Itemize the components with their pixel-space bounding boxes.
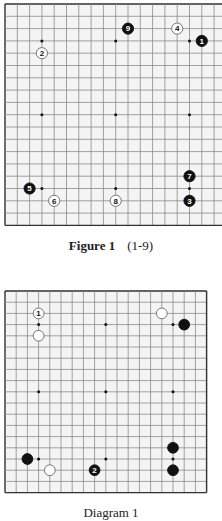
black-stone [168,465,179,476]
star-point [104,390,107,393]
star-point [37,390,40,393]
diagram1-caption-label: Diagram 1 [83,505,138,520]
figure1-caption-range: (1-9) [127,238,153,253]
white-stone [33,330,44,341]
black-stone [179,319,190,330]
white-stone [156,308,167,319]
star-point [37,458,40,461]
black-stone [168,442,179,453]
figure1-caption: Figure 1(1-9) [0,238,222,254]
move-number-label: 2 [92,466,97,475]
diagram1-caption: Diagram 1 [0,505,222,521]
black-stone [22,454,33,465]
star-point [172,390,175,393]
star-point [104,458,107,461]
star-point [104,323,107,326]
star-point [172,323,175,326]
move-number-label: 1 [36,309,41,318]
star-point [37,323,40,326]
star-point [172,458,175,461]
white-stone [44,465,55,476]
figure1-caption-label: Figure 1 [69,238,115,253]
